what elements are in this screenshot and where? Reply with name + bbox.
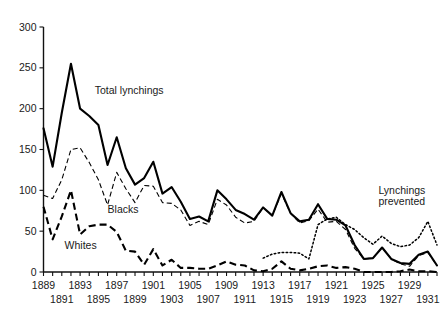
- lynchings-prevented-label-line2: prevented: [378, 195, 425, 207]
- y-tick-label: 200: [19, 102, 37, 114]
- whites-label: Whites: [65, 239, 97, 251]
- lynchings-prevented-label-line1: Lynchings: [378, 184, 425, 196]
- x-tick-label: 1911: [234, 293, 257, 305]
- x-tick-label: 1925: [361, 279, 385, 291]
- x-tick-label: 1889: [32, 279, 56, 291]
- y-tick-label: 150: [19, 143, 37, 155]
- y-tick-label: 250: [19, 61, 37, 73]
- x-tick-label: 1921: [325, 279, 349, 291]
- total-lynchings-label: Total lynchings: [95, 84, 164, 96]
- x-tick-label: 1919: [306, 293, 330, 305]
- x-tick-label: 1895: [87, 293, 111, 305]
- y-tick-label: 300: [19, 21, 37, 33]
- x-tick-label: 1927: [380, 293, 404, 305]
- x-tick-label: 1909: [215, 279, 239, 291]
- x-tick-label: 1903: [160, 293, 184, 305]
- x-tick-label: 1929: [398, 279, 422, 291]
- x-tick-label: 1893: [68, 279, 92, 291]
- x-tick-label: 1891: [50, 293, 74, 305]
- lynchings-chart: 050100150200250300 188918931897190119051…: [0, 0, 446, 323]
- x-tick-label: 1923: [343, 293, 367, 305]
- y-tick-label: 50: [25, 225, 37, 237]
- x-tick-label: 1901: [142, 279, 166, 291]
- x-tick-label: 1915: [270, 293, 294, 305]
- x-tick-label: 1905: [178, 279, 202, 291]
- x-tick-label: 1931: [416, 293, 440, 305]
- x-tick-label: 1913: [251, 279, 275, 291]
- x-tick-label: 1897: [105, 279, 129, 291]
- x-tick-label: 1899: [123, 293, 147, 305]
- chart-canvas: 050100150200250300 188918931897190119051…: [0, 0, 446, 323]
- x-tick-label: 1917: [288, 279, 312, 291]
- y-tick-label: 0: [31, 266, 37, 278]
- y-tick-label: 100: [19, 184, 37, 196]
- x-tick-label: 1907: [197, 293, 221, 305]
- blacks-label: Blacks: [108, 203, 139, 215]
